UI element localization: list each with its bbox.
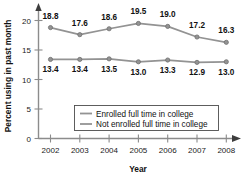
- x-tick-label-2008: 2008: [217, 146, 235, 155]
- y-tick-label-0: 0: [27, 135, 32, 144]
- x-tick-label-2007: 2007: [188, 146, 206, 155]
- data-point: [78, 33, 82, 37]
- data-point: [224, 40, 228, 44]
- data-point: [48, 25, 52, 29]
- x-tick-label-2004: 2004: [100, 146, 118, 155]
- x-axis-title: Year: [129, 164, 147, 174]
- data-point-label: 13.4: [72, 65, 88, 74]
- legend: Enrolled full time in college Not enroll…: [75, 106, 219, 131]
- y-tick-label-10: 10: [22, 76, 31, 85]
- y-tick-label-20: 20: [22, 17, 31, 26]
- data-point-label: 17.2: [189, 21, 205, 30]
- data-point: [48, 57, 52, 61]
- line-chart: 20 15 10 5 0 2002 2003 2004 2005 2006 20…: [0, 0, 244, 177]
- legend-label-not-enrolled: Not enrolled full time in college: [96, 120, 208, 129]
- y-tick-label-5: 5: [27, 105, 32, 114]
- data-point-label: 13.0: [130, 68, 146, 77]
- data-point-label: 18.6: [101, 13, 117, 22]
- x-tick-label-2006: 2006: [159, 146, 177, 155]
- data-point: [78, 57, 82, 61]
- chart-canvas: 20 15 10 5 0 2002 2003 2004 2005 2006 20…: [0, 0, 244, 177]
- data-point: [166, 58, 170, 62]
- x-tick-label-2005: 2005: [130, 146, 148, 155]
- data-point-label: 18.8: [43, 12, 59, 21]
- data-point-label: 13.4: [43, 65, 59, 74]
- x-tick-label-2003: 2003: [71, 146, 89, 155]
- data-point: [224, 60, 228, 64]
- x-tick-label-2002: 2002: [42, 146, 60, 155]
- data-point-label: 13.0: [218, 68, 234, 77]
- series-data-labels-not-enrolled: 13.413.413.513.013.312.913.0: [43, 65, 235, 78]
- data-point: [107, 27, 111, 31]
- y-tick-label-15: 15: [22, 46, 31, 55]
- data-point-label: 19.5: [130, 7, 146, 16]
- data-point: [195, 60, 199, 64]
- data-point-label: 16.3: [218, 26, 234, 35]
- series-markers-not-enrolled: [48, 57, 228, 65]
- data-point-label: 12.9: [189, 68, 205, 77]
- data-point-label: 17.6: [72, 19, 88, 28]
- data-point: [195, 35, 199, 39]
- legend-label-enrolled: Enrolled full time in college: [96, 110, 194, 119]
- data-point: [166, 24, 170, 28]
- data-point-label: 19.0: [160, 10, 176, 19]
- data-point-label: 13.3: [160, 66, 176, 75]
- data-point-label: 13.5: [101, 65, 117, 74]
- x-axis-arrow-icon: [232, 135, 241, 142]
- data-point: [136, 60, 140, 64]
- data-point: [107, 57, 111, 61]
- y-axis-arrow-icon: [35, 3, 41, 11]
- data-point: [136, 21, 140, 25]
- y-axis-title: Percent using in past month: [3, 20, 13, 133]
